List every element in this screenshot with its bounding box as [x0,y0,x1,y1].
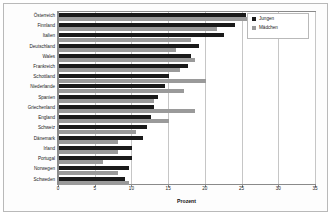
chart-legend: Jungen Mädchen [247,13,309,39]
y-axis-category-label: Irland [44,147,56,152]
bar-maedchen [59,109,195,113]
bar-maedchen [59,99,154,103]
bar-maedchen [59,68,180,72]
y-axis-category-label: Norwegen [34,167,55,172]
legend-item-jungen: Jungen [252,17,308,22]
bar-maedchen [59,160,103,164]
y-axis-category-labels: ÖsterreichFinnlandItalienDeutschlandWale… [4,11,55,185]
bar-maedchen [59,171,118,175]
x-axis-tick-label: 25 [239,187,244,192]
chart-canvas: ÖsterreichFinnlandItalienDeutschlandWale… [4,4,329,213]
y-axis-category-label: Finnland [37,24,55,29]
y-axis-category-label: Wales [42,55,55,60]
y-axis-category-label: Deutschland [29,45,55,50]
bar-maedchen [59,150,118,154]
bar-maedchen [59,89,184,93]
bar-maedchen [59,130,136,134]
y-axis-category-label: Portugal [38,157,55,162]
y-axis-category-label: Schottland [33,75,55,80]
bar-maedchen [59,79,206,83]
x-axis-tick-label: 10 [129,187,134,192]
y-axis-category-label: Niederlande [30,85,55,90]
bar-maedchen [59,140,118,144]
y-axis-category-label: Schweiz [38,126,55,131]
legend-label: Jungen [259,17,274,22]
legend-item-maedchen: Mädchen [252,26,308,31]
x-axis-tick-labels: 05101520253035 [57,187,316,196]
x-gridline [205,12,206,184]
x-axis-tick-label: 5 [93,187,96,192]
legend-swatch-icon [252,17,256,21]
x-axis-tick-label: 20 [202,187,207,192]
bar-maedchen [59,58,195,62]
y-axis-category-label: England [38,116,55,121]
y-axis-category-label: Österreich [34,14,55,19]
y-axis-category-label: Frankreich [33,65,55,70]
x-axis-tick-label: 35 [312,187,317,192]
bar-maedchen [59,38,191,42]
x-axis-tick-label: 15 [166,187,171,192]
x-axis-tick-label: 30 [276,187,281,192]
legend-label: Mädchen [259,26,278,31]
x-gridline [315,12,316,184]
chart-frame: ÖsterreichFinnlandItalienDeutschlandWale… [3,3,328,212]
y-axis-category-label: Spanien [38,96,55,101]
y-axis-category-label: Italien [43,34,55,39]
y-axis-category-label: Dänemark [34,137,55,142]
bar-maedchen [59,27,217,31]
bar-maedchen [59,119,169,123]
legend-swatch-icon [252,26,256,30]
y-axis-category-label: Schweden [34,178,55,183]
x-gridline [242,12,243,184]
x-axis-title: Prozent [57,198,316,204]
x-axis-tick-label: 0 [57,187,60,192]
bar-maedchen [59,48,176,52]
y-axis-category-label: Griechenland [28,106,55,111]
